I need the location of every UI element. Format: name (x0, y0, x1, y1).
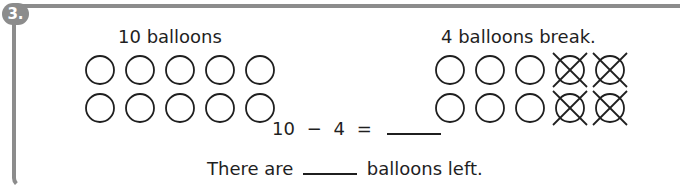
equation-operator: − (307, 118, 322, 139)
balloon-icon (245, 55, 275, 85)
balloon-icon (125, 93, 155, 123)
broken-balloon-icon (555, 55, 585, 85)
broken-balloon-icon (595, 55, 625, 85)
left-group-label: 10 balloons (118, 26, 222, 48)
balloon-icon (245, 93, 275, 123)
equation-subtrahend: 4 (333, 118, 344, 139)
broken-balloon-icon (595, 93, 625, 123)
balloon-icon (85, 55, 115, 85)
balloon-icon (125, 55, 155, 85)
balloon-icon (435, 55, 465, 85)
balloon-icon (165, 55, 195, 85)
balloon-icon (475, 55, 505, 85)
frame-top-border (14, 4, 680, 8)
balloon-icon (515, 93, 545, 123)
equation: 10 − 4 = (272, 117, 445, 140)
right-balloon-group (435, 55, 625, 123)
sentence-before: There are (207, 158, 293, 179)
right-group-label: 4 balloons break. (441, 26, 596, 48)
answer-sentence: There are balloons left. (207, 157, 483, 180)
sentence-after: balloons left. (367, 158, 483, 179)
balloon-icon (85, 93, 115, 123)
balloon-icon (475, 93, 505, 123)
balloon-icon (515, 55, 545, 85)
frame-left-border (12, 8, 26, 188)
balloon-icon (205, 93, 235, 123)
balloon-icon (165, 93, 195, 123)
left-balloon-group (85, 55, 275, 123)
equation-equals: = (357, 118, 372, 139)
equation-minuend: 10 (272, 118, 295, 139)
balloon-icon (205, 55, 235, 85)
equation-answer-blank[interactable] (387, 117, 441, 135)
sentence-answer-blank[interactable] (303, 157, 357, 175)
question-number-badge: 3. (2, 3, 29, 25)
broken-balloon-icon (555, 93, 585, 123)
